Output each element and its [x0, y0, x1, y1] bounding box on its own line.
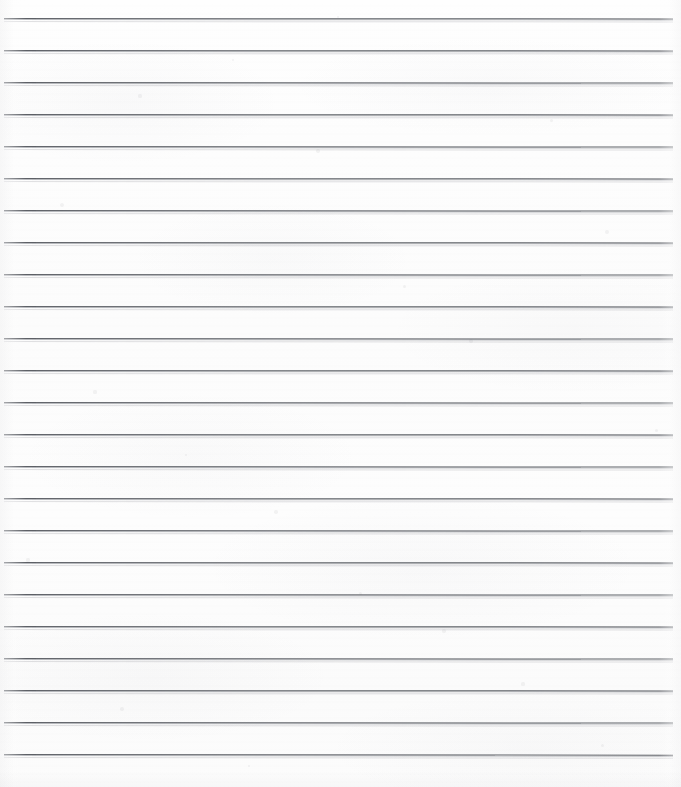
ruled-line [4, 274, 673, 276]
ruled-line [4, 626, 673, 627]
ruled-line [4, 146, 673, 148]
ruled-line [4, 306, 673, 307]
ruled-line [4, 242, 673, 243]
ruled-lines-layer [0, 0, 681, 787]
ruled-line [4, 18, 673, 19]
ruled-line [4, 658, 673, 660]
ruled-line [4, 338, 673, 340]
ruled-line [4, 562, 673, 563]
ruled-line [4, 754, 673, 756]
ruled-line [4, 434, 673, 435]
ruled-line [4, 178, 673, 179]
scanned-page [0, 0, 681, 787]
ruled-line [4, 114, 673, 115]
ruled-line [4, 530, 673, 532]
ruled-line [4, 370, 673, 371]
ruled-line [4, 594, 673, 596]
ruled-line [4, 50, 673, 51]
ruled-line [4, 82, 673, 84]
ruled-line [4, 690, 673, 691]
ruled-line [4, 210, 673, 212]
ruled-line [4, 498, 673, 499]
ruled-line [4, 402, 673, 404]
ruled-line [4, 722, 673, 724]
ruled-line [4, 466, 673, 468]
